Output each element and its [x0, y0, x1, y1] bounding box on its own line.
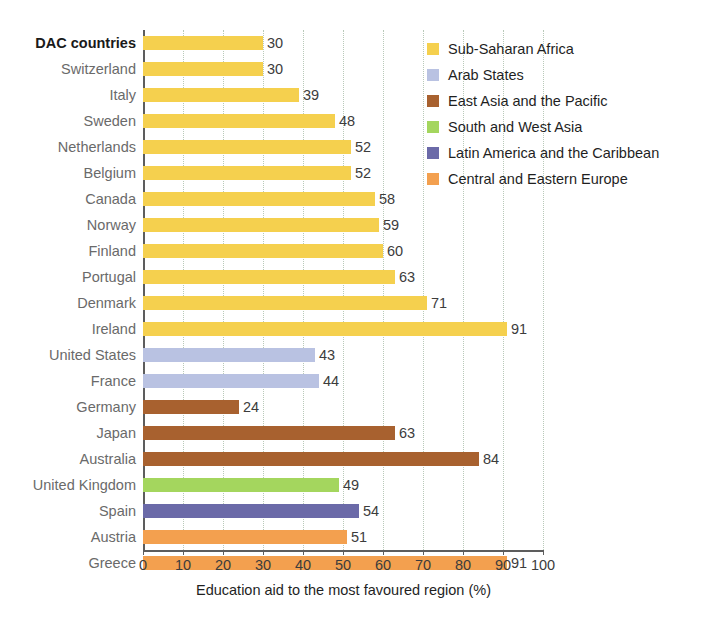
x-tick-mark: [423, 550, 424, 555]
legend-label: East Asia and the Pacific: [448, 93, 608, 109]
bar-value-label: 54: [359, 498, 379, 524]
bar[interactable]: [143, 426, 395, 440]
category-label: Ireland: [0, 316, 136, 342]
category-label: Portugal: [0, 264, 136, 290]
x-tick-label: 20: [203, 557, 243, 573]
bar[interactable]: [143, 530, 347, 544]
bar[interactable]: [143, 348, 315, 362]
legend-item[interactable]: Sub-Saharan Africa: [427, 36, 712, 62]
x-tick-mark: [143, 550, 144, 555]
bar-value-label: 84: [479, 446, 499, 472]
bar[interactable]: [143, 192, 375, 206]
legend-swatch-icon: [427, 121, 439, 133]
category-label: Finland: [0, 238, 136, 264]
x-tick-label: 0: [123, 557, 163, 573]
category-label: Netherlands: [0, 134, 136, 160]
bar-value-label: 30: [263, 56, 283, 82]
bar-row[interactable]: United Kingdom49: [0, 472, 718, 498]
legend-label: Latin America and the Caribbean: [448, 145, 659, 161]
bar[interactable]: [143, 400, 239, 414]
bar[interactable]: [143, 36, 263, 50]
bar[interactable]: [143, 218, 379, 232]
legend-item[interactable]: South and West Asia: [427, 114, 712, 140]
bar-value-label: 58: [375, 186, 395, 212]
category-label: DAC countries: [0, 30, 136, 56]
bar-row[interactable]: Norway59: [0, 212, 718, 238]
category-label: Sweden: [0, 108, 136, 134]
bar-value-label: 52: [351, 160, 371, 186]
bar-row[interactable]: Portugal63: [0, 264, 718, 290]
bar[interactable]: [143, 166, 351, 180]
bar[interactable]: [143, 140, 351, 154]
x-tick-label: 40: [283, 557, 323, 573]
x-tick-mark: [223, 550, 224, 555]
bar-value-label: 52: [351, 134, 371, 160]
legend-swatch-icon: [427, 43, 439, 55]
category-label: Norway: [0, 212, 136, 238]
bar-row[interactable]: Spain54: [0, 498, 718, 524]
x-tick-mark: [463, 550, 464, 555]
x-tick-label: 100: [523, 557, 563, 573]
bar-row[interactable]: Japan63: [0, 420, 718, 446]
legend-item[interactable]: Central and Eastern Europe: [427, 166, 712, 192]
bar-value-label: 30: [263, 30, 283, 56]
category-label: Spain: [0, 498, 136, 524]
x-axis-title: Education aid to the most favoured regio…: [143, 582, 544, 598]
bar[interactable]: [143, 478, 339, 492]
bar[interactable]: [143, 270, 395, 284]
x-tick-mark: [183, 550, 184, 555]
bar[interactable]: [143, 504, 359, 518]
bar-value-label: 59: [379, 212, 399, 238]
x-tick-label: 90: [483, 557, 523, 573]
bar-value-label: 71: [427, 290, 447, 316]
category-label: Italy: [0, 82, 136, 108]
x-tick-label: 50: [323, 557, 363, 573]
category-label: Japan: [0, 420, 136, 446]
x-tick-mark: [263, 550, 264, 555]
category-label: Germany: [0, 394, 136, 420]
bar-row[interactable]: Australia84: [0, 446, 718, 472]
x-tick-label: 30: [243, 557, 283, 573]
bar-value-label: 63: [395, 264, 415, 290]
bar-value-label: 39: [299, 82, 319, 108]
category-label: Belgium: [0, 160, 136, 186]
x-tick-mark: [503, 550, 504, 555]
bar[interactable]: [143, 114, 335, 128]
bar-row[interactable]: United States43: [0, 342, 718, 368]
x-tick-label: 70: [403, 557, 443, 573]
category-label: Switzerland: [0, 56, 136, 82]
legend-swatch-icon: [427, 69, 439, 81]
bar-row[interactable]: Austria51: [0, 524, 718, 550]
bar-value-label: 24: [239, 394, 259, 420]
category-label: United Kingdom: [0, 472, 136, 498]
category-label: Denmark: [0, 290, 136, 316]
bar[interactable]: [143, 62, 263, 76]
category-label: Austria: [0, 524, 136, 550]
category-label: United States: [0, 342, 136, 368]
legend-label: Sub-Saharan Africa: [448, 41, 574, 57]
bar-row[interactable]: Finland60: [0, 238, 718, 264]
bar-value-label: 91: [507, 316, 527, 342]
bar-row[interactable]: France44: [0, 368, 718, 394]
bar-row[interactable]: Ireland91: [0, 316, 718, 342]
bar-value-label: 44: [319, 368, 339, 394]
bar[interactable]: [143, 88, 299, 102]
x-tick-mark: [383, 550, 384, 555]
bar[interactable]: [143, 322, 507, 336]
legend-label: South and West Asia: [448, 119, 582, 135]
legend-item[interactable]: East Asia and the Pacific: [427, 88, 712, 114]
bar-value-label: 60: [383, 238, 403, 264]
category-label: Greece: [0, 550, 136, 576]
category-label: Australia: [0, 446, 136, 472]
bar-value-label: 51: [347, 524, 367, 550]
bar[interactable]: [143, 244, 383, 258]
bar-row[interactable]: Denmark71: [0, 290, 718, 316]
bar-row[interactable]: Germany24: [0, 394, 718, 420]
bar[interactable]: [143, 296, 427, 310]
bar[interactable]: [143, 374, 319, 388]
bar[interactable]: [143, 452, 479, 466]
legend-item[interactable]: Arab States: [427, 62, 712, 88]
legend-item[interactable]: Latin America and the Caribbean: [427, 140, 712, 166]
category-label: Canada: [0, 186, 136, 212]
legend-swatch-icon: [427, 173, 439, 185]
